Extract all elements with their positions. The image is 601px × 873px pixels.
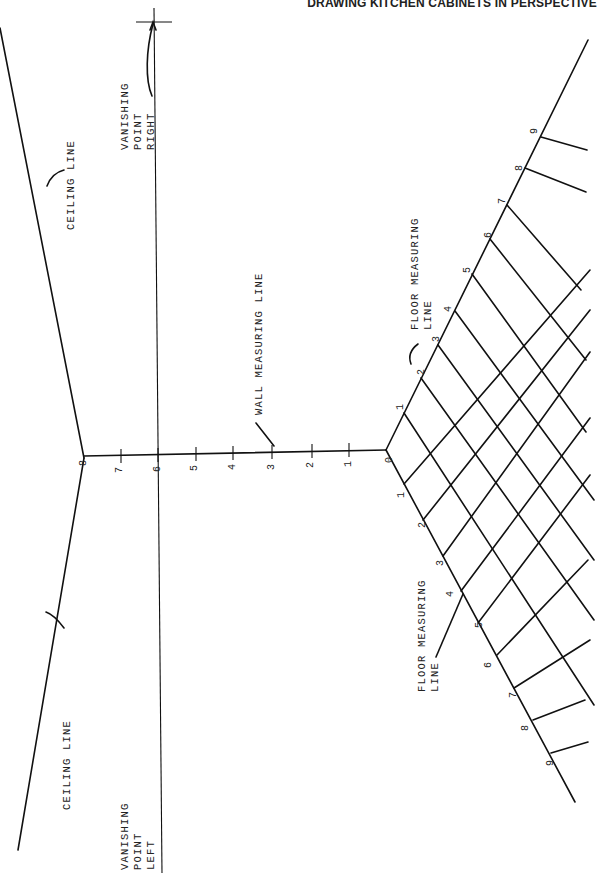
svg-text:LINE: LINE xyxy=(422,300,434,330)
svg-text:2: 2 xyxy=(416,369,427,375)
svg-text:7: 7 xyxy=(497,198,508,204)
floor-lower-leader xyxy=(436,594,463,657)
vp-right-arrow xyxy=(147,24,153,96)
svg-text:LINE: LINE xyxy=(429,662,441,692)
label-vanishing-point-left: VANISHING POINT LEFT xyxy=(119,802,157,870)
label-ceiling-line-upper: CEILING LINE xyxy=(65,140,77,230)
svg-text:9: 9 xyxy=(545,760,556,766)
svg-text:FLOOR MEASURING: FLOOR MEASURING xyxy=(409,217,421,330)
svg-text:POINT: POINT xyxy=(132,832,144,870)
svg-text:6: 6 xyxy=(483,232,494,238)
perspective-diagram: VANISHING POINT RIGHT VANISHING POINT LE… xyxy=(0,0,601,873)
svg-text:3: 3 xyxy=(431,336,442,342)
svg-text:POINT: POINT xyxy=(132,112,144,150)
label-wall-measuring-line: WALL MEASURING LINE xyxy=(253,272,265,415)
wall-scale-numbers: 0 1 2 3 4 5 6 7 8 xyxy=(78,457,395,473)
svg-text:4: 4 xyxy=(227,464,238,470)
svg-text:FLOOR MEASURING: FLOOR MEASURING xyxy=(416,579,428,692)
svg-text:RIGHT: RIGHT xyxy=(145,112,157,150)
ceiling-line-lower xyxy=(18,458,84,850)
svg-text:2: 2 xyxy=(305,462,316,468)
label-floor-measuring-line-lower: FLOOR MEASURING LINE xyxy=(416,579,441,692)
svg-text:3: 3 xyxy=(266,464,277,470)
svg-text:3: 3 xyxy=(435,560,446,566)
svg-text:0: 0 xyxy=(384,457,395,463)
svg-text:6: 6 xyxy=(152,466,163,472)
svg-text:1: 1 xyxy=(396,492,407,498)
floor-upper-leader xyxy=(410,344,418,364)
svg-text:5: 5 xyxy=(189,465,200,471)
svg-text:LEFT: LEFT xyxy=(145,840,157,870)
wall-measuring-line xyxy=(84,450,386,456)
svg-text:4: 4 xyxy=(445,591,456,597)
svg-text:9: 9 xyxy=(529,128,540,134)
svg-text:VANISHING: VANISHING xyxy=(119,802,131,870)
svg-text:7: 7 xyxy=(508,692,519,698)
svg-text:7: 7 xyxy=(114,467,125,473)
ceiling-upper-leader xyxy=(47,170,64,186)
svg-text:VANISHING: VANISHING xyxy=(119,82,131,150)
svg-text:1: 1 xyxy=(395,404,406,410)
svg-text:2: 2 xyxy=(417,522,428,528)
svg-text:8: 8 xyxy=(514,165,525,171)
label-ceiling-line-lower: CEILING LINE xyxy=(61,720,73,810)
svg-text:6: 6 xyxy=(483,662,494,668)
svg-text:5: 5 xyxy=(462,267,473,273)
svg-text:5: 5 xyxy=(474,622,485,628)
svg-text:4: 4 xyxy=(443,306,454,312)
label-floor-measuring-line-upper: FLOOR MEASURING LINE xyxy=(409,217,434,330)
wall-leader xyxy=(256,423,274,446)
svg-text:1: 1 xyxy=(343,461,354,467)
svg-text:8: 8 xyxy=(520,725,531,731)
ceiling-line-upper xyxy=(0,28,84,458)
svg-text:8: 8 xyxy=(78,460,89,466)
